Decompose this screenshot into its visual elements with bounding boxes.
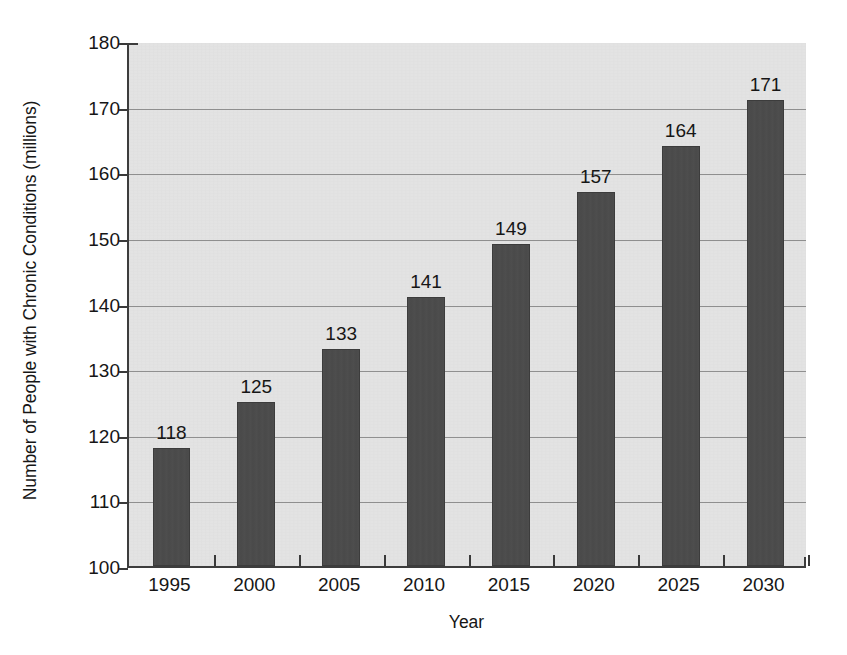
y-axis-tick-labels: 100110120130140150160170180 (58, 43, 120, 568)
x-axis-tick-label: 1995 (148, 574, 190, 596)
x-axis-tick-mark (553, 555, 555, 566)
y-axis-tick-label: 140 (88, 295, 120, 317)
bar-texture (154, 449, 190, 565)
y-axis-tick-label: 180 (88, 32, 120, 54)
y-axis-tick-label: 130 (88, 360, 120, 382)
bar-texture (748, 101, 784, 565)
bar: 133 (322, 349, 360, 566)
gridline (129, 306, 806, 307)
bar: 164 (662, 146, 700, 566)
y-axis-tick-mark (119, 568, 128, 570)
y-axis-tick-label: 120 (88, 426, 120, 448)
bar-texture (238, 403, 274, 565)
bar: 141 (407, 297, 445, 566)
x-axis-tick-label: 2020 (573, 574, 615, 596)
gridline (129, 240, 806, 241)
x-axis-title: Year (127, 612, 806, 633)
gridline (129, 174, 806, 175)
bar-texture (493, 245, 529, 565)
x-axis-tick-mark (299, 555, 301, 566)
x-axis-right-cap (804, 557, 806, 566)
bar-value-label: 164 (665, 120, 697, 142)
y-axis-tick-label: 170 (88, 98, 120, 120)
y-axis-tick-label: 150 (88, 229, 120, 251)
x-axis-tick-label: 2010 (403, 574, 445, 596)
bar-value-label: 125 (240, 376, 272, 398)
bar-value-label: 118 (156, 422, 186, 444)
x-axis-tick-label: 2000 (233, 574, 275, 596)
gridline (129, 371, 806, 372)
bar-texture (663, 147, 699, 565)
bar-value-label: 157 (580, 166, 612, 188)
y-axis-title: Number of People with Chronic Conditions… (18, 0, 44, 600)
x-axis-tick-mark (808, 555, 810, 566)
plot-area: 118125133141149157164171 (127, 43, 806, 568)
bar-value-label: 171 (750, 74, 782, 96)
bar-chart: Number of People with Chronic Conditions… (0, 0, 847, 655)
bar-texture (578, 193, 614, 565)
bar: 171 (747, 100, 785, 566)
bar-value-label: 149 (495, 218, 527, 240)
x-axis-tick-label: 2025 (658, 574, 700, 596)
bar: 149 (492, 244, 530, 566)
y-axis-top-cap (129, 43, 138, 45)
x-axis-tick-labels: 19952000200520102015202020252030 (127, 574, 806, 602)
x-axis-tick-label: 2005 (318, 574, 360, 596)
bar-value-label: 141 (410, 271, 442, 293)
y-axis-tick-label: 160 (88, 163, 120, 185)
y-axis-tick-label: 110 (90, 491, 120, 513)
bar-texture (408, 298, 444, 565)
bar: 118 (153, 448, 191, 566)
x-axis-tick-mark (384, 555, 386, 566)
plot-background-texture (129, 43, 806, 566)
gridline (129, 437, 806, 438)
y-axis-title-text: Number of People with Chronic Conditions… (21, 100, 42, 500)
y-axis-tick-label: 100 (88, 557, 120, 579)
x-axis-tick-mark (723, 555, 725, 566)
x-axis-tick-mark (214, 555, 216, 566)
bar: 157 (577, 192, 615, 566)
x-axis-tick-mark (469, 555, 471, 566)
x-axis-tick-label: 2015 (488, 574, 530, 596)
gridline (129, 109, 806, 110)
bar-value-label: 133 (325, 323, 357, 345)
x-axis-tick-mark (638, 555, 640, 566)
bar-texture (323, 350, 359, 565)
x-axis-tick-label: 2030 (742, 574, 784, 596)
bar: 125 (237, 402, 275, 566)
gridline (129, 502, 806, 503)
